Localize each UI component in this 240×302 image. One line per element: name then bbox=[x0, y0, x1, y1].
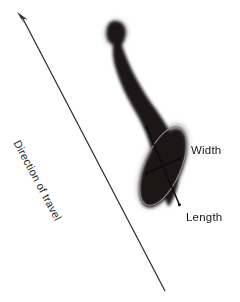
bloodstain-directionality-figure: Width Length Direction of travel bbox=[0, 0, 240, 302]
width-axis-endpoint-right bbox=[178, 158, 181, 161]
length-axis-endpoint-top bbox=[145, 126, 148, 129]
length-axis-endpoint-bottom bbox=[178, 203, 181, 206]
direction-arrow-icon bbox=[17, 12, 165, 291]
length-label: Length bbox=[186, 211, 222, 223]
arrow-shaft bbox=[22, 17, 165, 291]
width-axis-endpoint-left bbox=[145, 172, 148, 175]
arrow-head bbox=[17, 12, 28, 25]
width-label: Width bbox=[191, 144, 221, 156]
bloodstain-icon bbox=[104, 20, 196, 214]
